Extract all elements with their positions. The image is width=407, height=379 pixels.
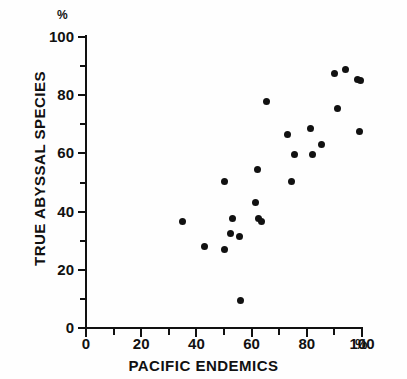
y-tick-60 bbox=[78, 152, 86, 154]
x-tick-label-60: 60 bbox=[232, 336, 272, 351]
x-tick-label-20: 20 bbox=[121, 336, 161, 351]
plot-area bbox=[86, 37, 362, 328]
data-point bbox=[254, 166, 261, 173]
y-tick-label-80: 80 bbox=[34, 87, 74, 102]
y-minor-tick-90 bbox=[80, 65, 86, 67]
y-tick-20 bbox=[78, 269, 86, 271]
y-tick-label-60: 60 bbox=[34, 145, 74, 160]
data-point bbox=[201, 243, 208, 250]
data-point bbox=[252, 199, 259, 206]
data-point bbox=[227, 230, 234, 237]
y-tick-label-40: 40 bbox=[34, 204, 74, 219]
x-minor-tick-90 bbox=[333, 329, 335, 335]
data-point bbox=[258, 218, 265, 225]
x-minor-tick-10 bbox=[113, 329, 115, 335]
data-point bbox=[357, 77, 364, 84]
data-point bbox=[229, 215, 236, 222]
data-point bbox=[179, 218, 186, 225]
y-minor-tick-50 bbox=[80, 182, 86, 184]
x-axis-title: PACIFIC ENDEMICS bbox=[0, 357, 407, 374]
data-point bbox=[288, 178, 295, 185]
scatter-plot-figure: % % PACIFIC ENDEMICS TRUE ABYSSAL SPECIE… bbox=[0, 0, 407, 379]
x-minor-tick-30 bbox=[168, 329, 170, 335]
data-point bbox=[291, 151, 298, 158]
data-point bbox=[356, 128, 363, 135]
y-minor-tick-10 bbox=[80, 298, 86, 300]
y-tick-label-0: 0 bbox=[34, 320, 74, 335]
y-axis-unit-label: % bbox=[57, 8, 68, 22]
x-minor-tick-50 bbox=[223, 329, 225, 335]
data-point bbox=[284, 131, 291, 138]
y-tick-label-20: 20 bbox=[34, 262, 74, 277]
y-minor-tick-70 bbox=[80, 123, 86, 125]
x-tick-label-80: 80 bbox=[287, 336, 327, 351]
data-point bbox=[221, 246, 228, 253]
y-minor-tick-30 bbox=[80, 240, 86, 242]
y-tick-40 bbox=[78, 211, 86, 213]
data-point bbox=[221, 178, 228, 185]
x-tick-label-40: 40 bbox=[176, 336, 216, 351]
data-point bbox=[236, 233, 243, 240]
data-point bbox=[263, 98, 270, 105]
data-point bbox=[307, 125, 314, 132]
data-point bbox=[334, 105, 341, 112]
y-tick-label-100: 100 bbox=[34, 29, 74, 44]
data-point bbox=[342, 66, 349, 73]
x-tick-label-100: 100 bbox=[342, 336, 382, 351]
y-tick-100 bbox=[78, 36, 86, 38]
data-point bbox=[237, 297, 244, 304]
y-tick-80 bbox=[78, 94, 86, 96]
data-point bbox=[318, 141, 325, 148]
x-tick-label-0: 0 bbox=[66, 336, 106, 351]
data-point bbox=[331, 70, 338, 77]
data-point bbox=[309, 151, 316, 158]
x-minor-tick-70 bbox=[278, 329, 280, 335]
